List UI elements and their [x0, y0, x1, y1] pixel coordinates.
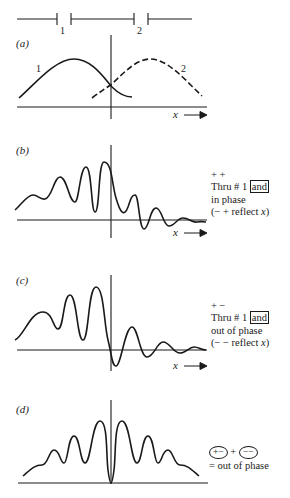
panel-b-note-reflect-text: (− + reflect	[211, 206, 261, 217]
panel-a-curve-2-label: 2	[181, 63, 186, 74]
panel-b-note-and-box: and	[250, 180, 269, 193]
panel-c-note-reflect: (− − reflect x)	[211, 337, 269, 349]
panel-c-note-signs: + −	[211, 300, 225, 312]
panel-d-note-result: = out of phase	[209, 460, 269, 472]
diagram-canvas	[0, 0, 290, 498]
slit-2-label: 2	[137, 25, 142, 36]
panel-c-label: (c)	[16, 274, 28, 286]
panel-a-axes	[17, 35, 207, 119]
panel-c-x-arrow-icon	[184, 363, 207, 370]
panel-b-note-reflect: (− + reflect x)	[211, 206, 269, 218]
panel-c-x-axis-label: x	[173, 359, 178, 371]
panel-c-note-reflect-text: (− − reflect	[211, 337, 261, 348]
panel-b-note-thru-text: Thru # 1	[211, 181, 247, 192]
panel-b-note-signs: + +	[211, 169, 225, 181]
slit-1-label: 1	[60, 25, 65, 36]
panel-a-label: (a)	[16, 37, 29, 49]
panel-b-note-thru: Thru # 1 and	[211, 181, 269, 193]
panel-d-note-plus: +	[230, 446, 236, 457]
panel-c-note-and-box: and	[250, 311, 269, 324]
panel-d-note-sum: +− + −−	[209, 446, 258, 459]
panel-a-x-axis-label: x	[173, 108, 178, 120]
panel-a-x-arrow-icon	[184, 112, 207, 119]
panel-b-note-phase: in phase	[211, 194, 246, 206]
panel-b-note-reflect-close: )	[266, 206, 270, 217]
panel-c-note-reflect-close: )	[266, 337, 270, 348]
panel-b-axes	[17, 145, 207, 238]
panel-b-x-arrow-icon	[184, 230, 207, 237]
panel-b-label: (b)	[16, 144, 29, 156]
panel-c-note-phase: out of phase	[211, 325, 262, 337]
minus-minus-oval-icon: −−	[239, 446, 258, 459]
panel-c-note-thru: Thru # 1 and	[211, 312, 269, 324]
plus-minus-oval-icon: +−	[209, 446, 228, 459]
panel-d-label: (d)	[16, 403, 29, 415]
panel-d-axes	[18, 400, 208, 484]
slit-barrier	[17, 13, 192, 25]
panel-b-x-axis-label: x	[173, 226, 178, 238]
panel-a-curve-1-label: 1	[36, 63, 41, 74]
panel-c-note-thru-text: Thru # 1	[211, 312, 247, 323]
